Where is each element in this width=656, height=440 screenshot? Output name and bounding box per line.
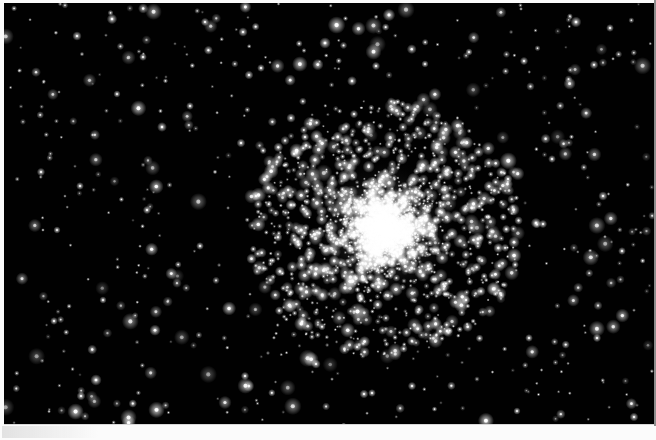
star-field-canvas (4, 3, 654, 425)
screenshot-root (0, 0, 656, 440)
astronomical-photograph (4, 3, 654, 425)
scan-bottom-edge-line (4, 424, 654, 425)
